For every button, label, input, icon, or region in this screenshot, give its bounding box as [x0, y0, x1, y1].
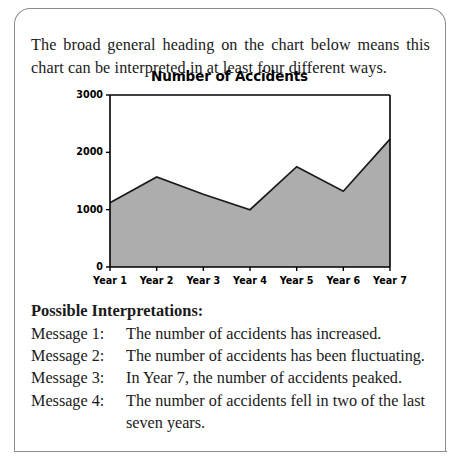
- interpretation-item: Message 4:The number of accidents fell i…: [31, 390, 435, 412]
- interpretation-item: Message 3:In Year 7, the number of accid…: [31, 367, 435, 389]
- interpretation-item: Message 2:The number of accidents has be…: [31, 345, 435, 367]
- interpretations-section: Possible Interpretations: Message 1:The …: [31, 300, 435, 434]
- y-tick-label: 0: [57, 261, 103, 272]
- interpretation-text: The number of accidents has increased.: [126, 323, 435, 345]
- x-tick-label: Year 7: [363, 275, 417, 286]
- interpretation-label: Message 4:: [31, 390, 126, 412]
- interpretation-text: The number of accidents has been fluctua…: [126, 345, 435, 367]
- chart-plot-area: [0, 68, 459, 290]
- interpretation-text-continuation: seven years.: [31, 412, 435, 434]
- panel-bottom-rule: [14, 451, 447, 452]
- interpretation-text: In Year 7, the number of accidents peake…: [126, 367, 435, 389]
- interpretation-label: Message 3:: [31, 367, 126, 389]
- accidents-area-chart: Number of Accidents 0100020003000 Year 1…: [0, 68, 459, 290]
- y-tick-label: 3000: [57, 89, 103, 100]
- interpretation-label: Message 1:: [31, 323, 126, 345]
- y-tick-label: 2000: [57, 146, 103, 157]
- interpretation-item: Message 1:The number of accidents has in…: [31, 323, 435, 345]
- interpretation-text: The number of accidents fell in two of t…: [126, 390, 435, 412]
- interpretations-heading: Possible Interpretations:: [31, 300, 435, 322]
- area-series-fill: [110, 139, 390, 267]
- y-tick-label: 1000: [57, 204, 103, 215]
- interpretation-label: Message 2:: [31, 345, 126, 367]
- interpretations-list: Message 1:The number of accidents has in…: [31, 323, 435, 434]
